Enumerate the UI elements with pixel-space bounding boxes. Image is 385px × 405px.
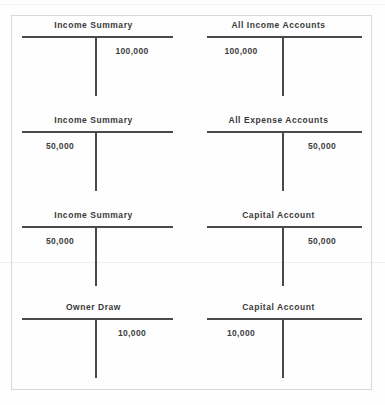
t-account-vertical-rule [282, 319, 284, 378]
t-account-all-expense-accounts: All Expense Accounts 50,000 [196, 110, 361, 200]
t-account-title: Income Summary [11, 20, 176, 30]
t-account-debit-amount: 50,000 [29, 141, 91, 151]
t-account-credit-amount: 100,000 [98, 46, 166, 56]
t-account-vertical-rule [95, 319, 97, 378]
t-account-vertical-rule [95, 37, 97, 96]
t-account-capital-account-2: Capital Account 10,000 [196, 297, 361, 387]
t-account-debit-amount: 10,000 [208, 328, 274, 338]
t-account-horizontal-rule [22, 318, 173, 320]
t-account-vertical-rule [95, 132, 97, 191]
t-account-vertical-rule [282, 37, 284, 96]
t-account-income-summary-1: Income Summary 100,000 [11, 15, 176, 105]
t-account-debit-amount: 50,000 [29, 236, 91, 246]
t-account-owner-draw: Owner Draw 10,000 [11, 297, 176, 387]
t-account-title: Capital Account [196, 210, 361, 220]
t-account-vertical-rule [282, 132, 284, 191]
t-account-title: Owner Draw [11, 302, 176, 312]
t-account-horizontal-rule [22, 36, 173, 38]
t-account-title: All Expense Accounts [196, 115, 361, 125]
t-account-horizontal-rule [22, 131, 173, 133]
t-account-title: Income Summary [11, 115, 176, 125]
t-account-credit-amount: 50,000 [287, 236, 357, 246]
t-account-vertical-rule [95, 227, 97, 286]
t-account-horizontal-rule [207, 226, 362, 228]
t-account-title: Income Summary [11, 210, 176, 220]
t-account-horizontal-rule [207, 36, 362, 38]
t-account-vertical-rule [282, 227, 284, 286]
t-account-debit-amount: 100,000 [208, 46, 274, 56]
t-account-income-summary-2: Income Summary 50,000 [11, 110, 176, 200]
t-account-all-income-accounts: All Income Accounts 100,000 [196, 15, 361, 105]
scan-artifact-top [0, 4, 385, 5]
t-account-horizontal-rule [207, 318, 362, 320]
t-account-title: All Income Accounts [196, 20, 361, 30]
t-account-horizontal-rule [22, 226, 173, 228]
t-account-credit-amount: 10,000 [98, 328, 166, 338]
t-account-income-summary-3: Income Summary 50,000 [11, 205, 176, 295]
t-account-horizontal-rule [207, 131, 362, 133]
accounting-worksheet: Income Summary 100,000 All Income Accoun… [0, 0, 385, 405]
t-account-capital-account-1: Capital Account 50,000 [196, 205, 361, 295]
t-account-title: Capital Account [196, 302, 361, 312]
t-account-credit-amount: 50,000 [287, 141, 357, 151]
